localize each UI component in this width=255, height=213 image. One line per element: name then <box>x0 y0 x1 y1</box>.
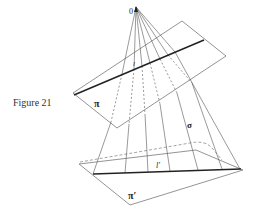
label-pi-prime: π′ <box>128 190 136 201</box>
label-l-prime: l′ <box>156 161 160 170</box>
projection-rays <box>93 7 240 174</box>
line-l <box>74 40 204 95</box>
plane-pi <box>73 21 226 128</box>
line-l-prime <box>93 169 241 174</box>
label-pi: π <box>94 98 100 109</box>
label-origin: 0 <box>129 7 133 16</box>
projection-diagram: 0 π π′ l l′ σ <box>0 0 255 213</box>
label-sigma: σ <box>187 120 192 130</box>
label-l: l <box>133 60 135 68</box>
